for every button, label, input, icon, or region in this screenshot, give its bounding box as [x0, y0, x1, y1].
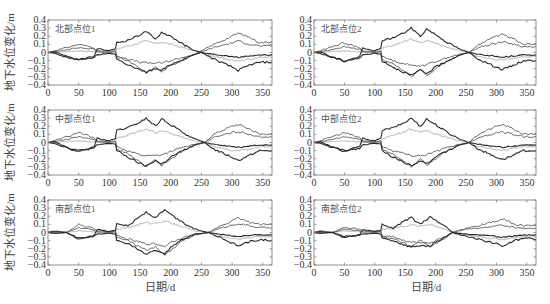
- series-line-lower_mid: [48, 40, 272, 63]
- x-tick-label: 0: [312, 87, 317, 98]
- series-group: [314, 118, 536, 167]
- figure: 050100150200250300350−0.4−0.3−0.2−0.100.…: [0, 0, 550, 304]
- subplot-grid: 050100150200250300350−0.4−0.3−0.2−0.100.…: [28, 14, 536, 278]
- x-tick-label: 150: [133, 177, 148, 188]
- x-tick-label: 300: [225, 267, 240, 278]
- x-tick-label: 300: [489, 267, 504, 278]
- x-tick-label: 100: [367, 87, 382, 98]
- panel-title: 南部点位1: [55, 203, 96, 214]
- x-tick-label: 0: [46, 87, 51, 98]
- y-axis-label: 地下水位变化/m: [3, 13, 16, 91]
- x-tick-label: 250: [194, 177, 209, 188]
- series-line-lower_mid: [48, 132, 272, 156]
- x-tick-label: 250: [194, 87, 209, 98]
- series-line-lower_dark: [314, 52, 536, 74]
- x-tick-label: 300: [489, 87, 504, 98]
- series-line-lower_dark: [48, 143, 272, 166]
- series-line-upper_dark: [48, 210, 272, 246]
- subplot: 050100150200250300350−0.4−0.3−0.2−0.100.…: [28, 104, 272, 188]
- x-tick-label: 350: [255, 87, 270, 98]
- x-tick-label: 100: [102, 267, 117, 278]
- x-tick-label: 150: [398, 267, 413, 278]
- subplot: 050100150200250300350−0.4−0.3−0.2−0.100.…: [294, 194, 536, 278]
- series-line-upper_mid: [48, 33, 272, 74]
- x-tick-label: 200: [428, 267, 443, 278]
- subplot: 050100150200250300350−0.4−0.3−0.2−0.100.…: [28, 194, 272, 278]
- x-tick-label: 250: [459, 87, 474, 98]
- series-line-upper_mid: [314, 219, 536, 248]
- x-tick-label: 350: [519, 87, 534, 98]
- x-tick-label: 350: [255, 267, 270, 278]
- series-group: [314, 217, 536, 248]
- x-tick-label: 350: [519, 267, 534, 278]
- x-tick-label: 200: [428, 87, 443, 98]
- x-tick-label: 200: [428, 177, 443, 188]
- y-tick-label: 0.4: [300, 14, 313, 25]
- x-tick-label: 200: [163, 87, 178, 98]
- panel-title: 南部点位2: [321, 203, 362, 214]
- series-line-upper_dark: [48, 118, 272, 161]
- x-axis-label: 日期/d: [145, 281, 176, 293]
- y-axis-label: 地下水位变化/m: [3, 193, 16, 271]
- x-tick-label: 50: [74, 267, 84, 278]
- chart-canvas: 050100150200250300350−0.4−0.3−0.2−0.100.…: [0, 0, 550, 304]
- y-tick-label: 0.4: [300, 104, 313, 115]
- x-tick-label: 50: [74, 87, 84, 98]
- x-tick-label: 350: [519, 177, 534, 188]
- x-tick-label: 0: [312, 177, 317, 188]
- x-tick-label: 50: [74, 177, 84, 188]
- x-tick-label: 300: [225, 177, 240, 188]
- panel-title: 北部点位2: [321, 23, 362, 34]
- x-tick-label: 350: [255, 177, 270, 188]
- x-tick-label: 100: [102, 87, 117, 98]
- x-tick-label: 0: [312, 267, 317, 278]
- y-axis-label: 地下水位变化/m: [3, 103, 16, 181]
- panel-title: 中部点位1: [55, 113, 96, 124]
- series-group: [48, 32, 272, 74]
- x-axis-label: 日期/d: [411, 281, 442, 293]
- series-line-lower_dark: [314, 142, 536, 165]
- y-tick-label: 0.4: [34, 104, 47, 115]
- x-tick-label: 150: [398, 87, 413, 98]
- y-tick-label: 0.4: [34, 194, 47, 205]
- y-tick-label: 0.4: [34, 14, 47, 25]
- x-tick-label: 200: [163, 267, 178, 278]
- series-group: [314, 27, 536, 76]
- subplot: 050100150200250300350−0.4−0.3−0.2−0.100.…: [28, 14, 272, 98]
- x-tick-label: 100: [367, 177, 382, 188]
- x-tick-label: 150: [133, 87, 148, 98]
- series-line-lower_mid: [314, 41, 536, 66]
- subplot: 050100150200250300350−0.4−0.3−0.2−0.100.…: [294, 14, 536, 98]
- x-tick-label: 0: [46, 177, 51, 188]
- series-group: [48, 118, 272, 167]
- x-tick-label: 250: [459, 267, 474, 278]
- x-tick-label: 50: [339, 87, 349, 98]
- x-tick-label: 150: [398, 177, 413, 188]
- x-tick-label: 100: [102, 177, 117, 188]
- panel-title: 北部点位1: [55, 23, 96, 34]
- x-tick-label: 0: [46, 267, 51, 278]
- x-tick-label: 250: [459, 177, 474, 188]
- subplot: 050100150200250300350−0.4−0.3−0.2−0.100.…: [294, 104, 536, 188]
- x-tick-label: 300: [489, 177, 504, 188]
- x-tick-label: 100: [367, 267, 382, 278]
- x-tick-label: 200: [163, 177, 178, 188]
- series-line-lower_mid: [48, 224, 272, 247]
- y-tick-label: 0.4: [300, 194, 313, 205]
- panel-title: 中部点位2: [321, 113, 362, 124]
- x-tick-label: 300: [225, 87, 240, 98]
- series-line-lower_mid: [314, 132, 536, 157]
- x-tick-label: 50: [339, 177, 349, 188]
- x-tick-label: 50: [339, 267, 349, 278]
- x-tick-label: 250: [194, 267, 209, 278]
- series-group: [48, 210, 272, 256]
- x-tick-label: 150: [133, 267, 148, 278]
